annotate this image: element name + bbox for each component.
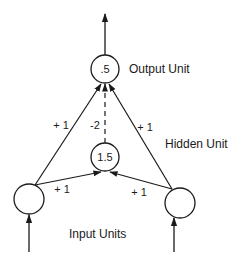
weight-right-input-output: + 1 <box>137 122 153 133</box>
weight-left-input-output: + 1 <box>53 120 69 131</box>
weight-right-input-hidden: + 1 <box>131 187 147 198</box>
output-unit-label: Output Unit <box>129 63 190 75</box>
output-unit-threshold: .5 <box>100 64 109 75</box>
input-unit-left-circle <box>14 184 44 214</box>
edge-right-input-to-output <box>109 84 172 189</box>
input-units-label: Input Units <box>69 228 126 240</box>
hidden-unit-threshold: 1.5 <box>97 152 112 163</box>
weight-hidden-output: -2 <box>90 120 100 131</box>
edge-left-input-to-output <box>35 84 101 185</box>
weight-left-input-hidden: + 1 <box>54 184 70 195</box>
hidden-unit-label: Hidden Unit <box>165 138 228 150</box>
input-unit-right-circle <box>165 188 195 218</box>
